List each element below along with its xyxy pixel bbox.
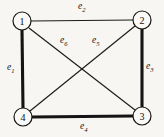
edge-label-subscript-e2: 2 xyxy=(82,6,85,13)
graph-node-4: 4 xyxy=(14,108,32,126)
graph-node-2: 2 xyxy=(133,11,151,29)
graph-edge-e4 xyxy=(32,116,133,117)
edge-label-e3: e3 xyxy=(146,62,154,72)
node-label-1: 1 xyxy=(20,16,25,27)
graph-figure: 1234 e1e2e3e4e5e6 xyxy=(0,0,164,137)
graph-node-3: 3 xyxy=(133,107,151,125)
edge-label-e5: e5 xyxy=(92,36,100,46)
graph-node-1: 1 xyxy=(13,12,31,30)
edge-label-e1: e1 xyxy=(7,63,15,73)
edge-layer xyxy=(22,20,142,117)
node-label-4: 4 xyxy=(21,112,26,123)
edge-label-subscript-e5: 5 xyxy=(96,40,99,47)
edge-label-subscript-e1: 1 xyxy=(11,67,14,74)
node-label-3: 3 xyxy=(140,111,145,122)
graph-edge-e1 xyxy=(22,30,23,108)
graph-canvas: 1234 xyxy=(0,0,164,137)
graph-edge-e2 xyxy=(31,20,133,21)
node-label-2: 2 xyxy=(140,15,145,26)
edge-label-subscript-e6: 6 xyxy=(64,40,67,47)
graph-edge-e6 xyxy=(29,28,135,110)
edge-label-e4: e4 xyxy=(80,122,88,132)
edge-label-subscript-e4: 4 xyxy=(84,126,87,133)
edge-label-e2: e2 xyxy=(78,2,86,12)
edge-label-e6: e6 xyxy=(60,36,68,46)
edge-label-subscript-e3: 3 xyxy=(150,66,153,73)
